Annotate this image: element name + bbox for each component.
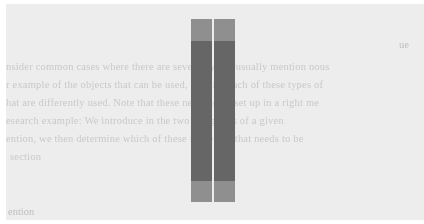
bar-bottom-segment <box>191 181 212 202</box>
right-overlay-bar <box>214 19 235 202</box>
bar-top-segment <box>191 19 212 41</box>
bar-bottom-segment <box>214 181 235 202</box>
bar-middle-segment <box>214 41 235 181</box>
bar-middle-segment <box>191 41 212 181</box>
bar-top-segment <box>214 19 235 41</box>
section-heading-fragment: ention <box>8 206 34 218</box>
section-heading-fragment: ue <box>399 39 409 51</box>
left-overlay-bar <box>191 19 212 202</box>
